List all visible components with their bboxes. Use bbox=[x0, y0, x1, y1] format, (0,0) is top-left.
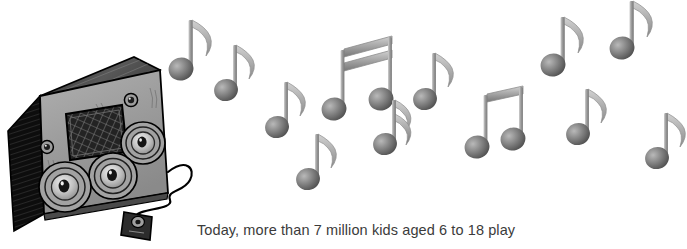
note-10 bbox=[607, 1, 653, 63]
note-8-beam-pair bbox=[462, 86, 529, 162]
note-7 bbox=[410, 53, 453, 113]
illustration-page: Today, more than 7 million kids aged 6 t… bbox=[0, 0, 687, 249]
knob-upper-right[interactable] bbox=[124, 93, 137, 106]
note-11 bbox=[563, 89, 606, 148]
boombox bbox=[8, 57, 192, 240]
note-5-beam-pair bbox=[319, 36, 397, 124]
note-4 bbox=[293, 134, 336, 193]
knob-lower-left[interactable] bbox=[41, 141, 54, 154]
note-3 bbox=[262, 82, 305, 141]
note-2 bbox=[211, 45, 254, 104]
microphone-plug[interactable] bbox=[121, 212, 152, 240]
note-12 bbox=[642, 113, 685, 172]
music-notes-group bbox=[166, 1, 686, 193]
boombox-side-panel bbox=[8, 96, 44, 231]
speaker-center[interactable] bbox=[89, 153, 137, 199]
note-1 bbox=[166, 20, 212, 84]
boombox-music-illustration bbox=[0, 0, 687, 249]
mesh-grille bbox=[66, 105, 127, 160]
note-9 bbox=[538, 17, 584, 80]
caption-text: Today, more than 7 million kids aged 6 t… bbox=[197, 222, 515, 238]
speaker-left[interactable] bbox=[39, 162, 91, 212]
